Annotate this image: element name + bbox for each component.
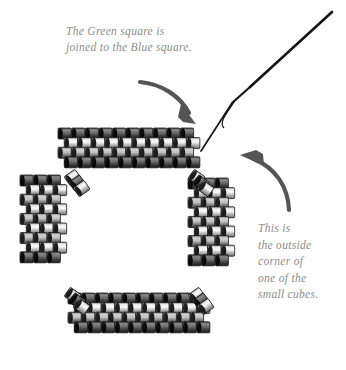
top-band-bead <box>72 147 85 158</box>
corner-join-top-right-bead <box>193 175 210 192</box>
bottom-band-bead <box>156 303 169 314</box>
bottom-band-bead <box>95 312 108 323</box>
bottom-band-bead <box>95 293 108 304</box>
top-band-bead <box>72 128 85 139</box>
right-band-bead <box>208 245 221 256</box>
left-band-bead <box>53 204 66 215</box>
top-band-bead <box>119 138 132 149</box>
bottom-band-bead <box>197 303 210 314</box>
bottom-band-bead <box>183 303 196 314</box>
right-band-bead <box>215 216 228 227</box>
corner-join-bottom-left <box>64 287 90 315</box>
top-band-bead <box>132 138 145 149</box>
bottom-band-bead <box>109 293 122 304</box>
right-band-bead <box>194 226 207 237</box>
left-band-bead <box>34 213 47 224</box>
top-band-bead <box>58 128 71 139</box>
top-band-bead <box>153 147 166 158</box>
left-band-bead <box>40 242 53 253</box>
bottom-band-bead <box>150 293 163 304</box>
top-band-bead <box>167 128 180 139</box>
top-band-bead <box>58 147 71 158</box>
top-band-bead <box>187 138 200 149</box>
bottom-band-bead <box>163 312 176 323</box>
bottom-band-bead <box>169 322 182 333</box>
bottom-band-bead <box>88 303 101 314</box>
top-band-bead <box>159 138 172 149</box>
top-band-bead <box>112 147 125 158</box>
left-band-bead <box>53 223 66 234</box>
left-band-bead <box>20 194 33 205</box>
bottom-band-bead <box>177 293 190 304</box>
right-band-bead <box>215 255 228 266</box>
left-band-bead <box>47 233 60 244</box>
bottom-band-bead <box>163 293 176 304</box>
corner-join-bottom-left-bead <box>73 298 90 315</box>
top-band-bead <box>64 138 77 149</box>
left-band-bead <box>34 194 47 205</box>
bottom-band-bead <box>101 303 114 314</box>
top-band-bead <box>167 147 180 158</box>
right-band-bead <box>215 197 228 208</box>
corner-join-top-left <box>64 169 90 197</box>
bottom-band-bead <box>197 322 210 333</box>
top-band-bead <box>132 157 145 168</box>
corner-join-top-left-bead <box>69 175 86 192</box>
left-band-bead <box>34 252 47 263</box>
right-band-bead <box>208 226 221 237</box>
left-band-bead <box>34 233 47 244</box>
left-band-bead <box>34 175 47 186</box>
top-band-bead <box>180 147 193 158</box>
right-band-bead <box>188 255 201 266</box>
left-band <box>20 175 67 263</box>
right-band-bead <box>188 197 201 208</box>
right-band-bead <box>188 216 201 227</box>
top-band-bead <box>105 138 118 149</box>
left-band-bead <box>53 242 66 253</box>
diagram-canvas: The Green square is joined to the Blue s… <box>0 0 346 370</box>
bottom-band-bead <box>150 312 163 323</box>
top-band-bead <box>187 157 200 168</box>
right-band-bead <box>202 236 215 247</box>
top-band-bead <box>91 157 104 168</box>
bottom-band-bead <box>82 312 95 323</box>
right-band-bead <box>202 197 215 208</box>
bottom-band-bead <box>190 312 203 323</box>
top-band-bead <box>78 138 91 149</box>
corner-join-top-left-bead <box>64 169 81 186</box>
left-band-bead <box>20 252 33 263</box>
top-band-bead <box>146 138 159 149</box>
left-band-bead <box>53 185 66 196</box>
right-band-bead <box>215 178 228 189</box>
left-band-bead <box>26 185 39 196</box>
right-band-bead <box>208 207 221 218</box>
right-band-bead <box>188 178 201 189</box>
top-band-bead <box>99 147 112 158</box>
left-band-bead <box>26 204 39 215</box>
top-band-bead <box>140 147 153 158</box>
bottom-band-bead <box>82 293 95 304</box>
left-band-bead <box>40 223 53 234</box>
corner-join-bottom-left-bead <box>64 287 81 304</box>
bottom-band-bead <box>68 293 81 304</box>
corner-join-top-right-bead <box>188 169 205 186</box>
bottom-band <box>68 293 210 333</box>
right-band-bead <box>221 245 234 256</box>
bottom-band-bead <box>142 303 155 314</box>
corner-join-bottom-right <box>188 287 214 315</box>
left-band-bead <box>20 233 33 244</box>
bottom-band-bead <box>122 312 135 323</box>
left-band-bead <box>26 242 39 253</box>
top-band-bead <box>173 138 186 149</box>
right-band-bead <box>194 245 207 256</box>
right-band-bead <box>221 226 234 237</box>
left-band-bead <box>47 175 60 186</box>
top-band-bead <box>78 157 91 168</box>
corner-join-bottom-right-bead <box>188 287 205 304</box>
bottom-band-bead <box>101 322 114 333</box>
bottom-band-bead <box>68 312 81 323</box>
bottom-band-bead <box>183 322 196 333</box>
bottom-band-bead <box>177 312 190 323</box>
callout-right-note: This is the outside corner of one of the… <box>258 220 318 303</box>
right-band-bead <box>215 236 228 247</box>
